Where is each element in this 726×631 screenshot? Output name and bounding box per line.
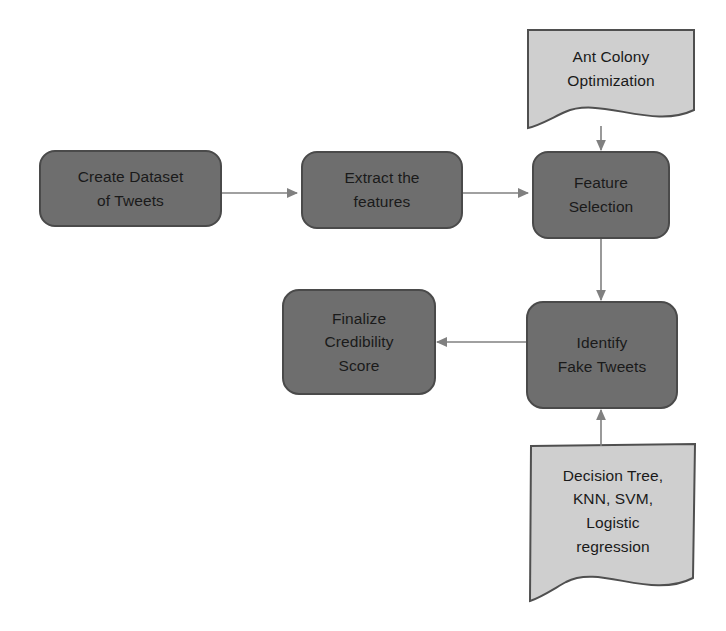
flowchart-canvas: Create Dataset of Tweets Extract the fea… <box>0 0 726 631</box>
node-ant-colony-shape <box>528 30 694 128</box>
node-create-dataset-shape <box>40 151 221 226</box>
flowchart-shapes-layer <box>0 0 726 631</box>
node-finalize-credibility-shape <box>283 290 435 394</box>
node-identify-fake-tweets-shape <box>527 302 677 408</box>
node-feature-selection-shape <box>533 152 669 238</box>
node-extract-features-shape <box>302 152 462 228</box>
node-classifiers-shape <box>530 444 695 601</box>
